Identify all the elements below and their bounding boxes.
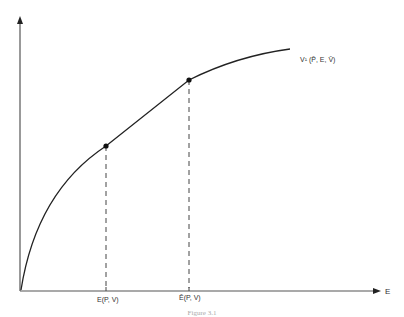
diagram-canvas <box>0 0 404 317</box>
x-axis-arrow-icon <box>373 288 381 294</box>
value-curve <box>21 49 290 290</box>
x-axis-label: E <box>385 287 390 296</box>
point-e-bar-label: Ē(P, V) <box>179 294 201 301</box>
point-e-label: E(P, V) <box>97 296 119 303</box>
figure-caption: Figure 3.1 <box>0 309 404 317</box>
point-e <box>103 143 108 148</box>
y-axis-arrow-icon <box>17 16 23 24</box>
point-e-bar <box>186 77 191 82</box>
curve-label: V¹ (P̄, E, V̄) <box>300 56 335 63</box>
